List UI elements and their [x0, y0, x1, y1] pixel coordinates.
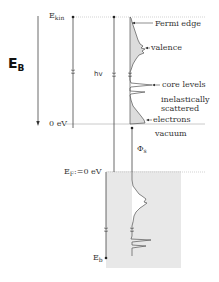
inelastic-fill	[130, 95, 145, 124]
upper-spectrum-fill	[130, 17, 145, 72]
ekin-label: Ekin	[49, 12, 64, 21]
work-function-label: Φs	[137, 145, 147, 154]
vacuum-label: vacuum	[155, 130, 187, 138]
binding-energy-axis-label: EB	[8, 56, 24, 73]
ekin-top-dot	[72, 16, 75, 19]
inelastic-label-line2: scattered	[161, 105, 199, 113]
inelastic-label-line3: electrons	[153, 116, 191, 124]
work-function-arrow-head	[131, 127, 134, 130]
core-levels-arrow	[152, 84, 155, 86]
eb-lower-label-sub: b	[99, 256, 103, 263]
zero-ev-label: 0 eV	[49, 120, 67, 128]
valence-label: valence	[151, 44, 182, 52]
ekin-label-sub: kin	[55, 14, 64, 21]
eb-label-main: E	[8, 55, 18, 71]
photoemission-diagram: EB Ekin 0 eV hv Fermi edge valence core …	[0, 0, 219, 282]
fermi-edge-label: Fermi edge	[155, 20, 201, 28]
eb-label-sub: B	[18, 63, 25, 73]
core-levels-label: core levels	[162, 81, 206, 89]
sample-region	[106, 171, 181, 268]
photon-energy-label: hv	[94, 71, 103, 78]
diagram-graphics	[0, 0, 219, 282]
eb-lower-dot	[105, 257, 108, 260]
fermi-level-label: EF:=0 eV	[64, 168, 102, 177]
hv-top-dot	[113, 16, 116, 19]
work-function-label-sub: s	[144, 147, 147, 154]
electrons-arrow	[146, 119, 149, 121]
inelastic-label-line1: inelastically	[161, 96, 210, 104]
eb-arrow-head	[36, 121, 39, 126]
eb-lower-label: Eb	[93, 254, 103, 263]
ef-label-suffix: :=0 eV	[74, 167, 102, 176]
